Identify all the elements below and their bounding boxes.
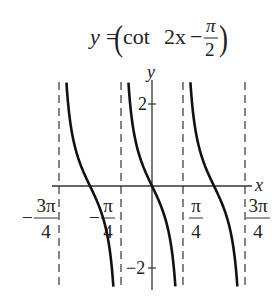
x-tick-label-num: π [103, 195, 113, 216]
title-arg: 2x [164, 24, 186, 49]
x-tick-label-sign: − [89, 207, 100, 228]
title-function: cot [123, 24, 150, 49]
y-tick-label: −2 [126, 258, 145, 278]
x-tick-label-num: π [191, 195, 201, 216]
title-frac-den: 2 [205, 39, 215, 60]
cot-graph: y = cot ( 2x − π 2 ) x y 2−2 3π4−π4−π43π… [0, 0, 272, 298]
x-axis-label: x [254, 175, 263, 195]
curve-branch [190, 82, 237, 286]
x-tick-label-den: 4 [191, 221, 201, 242]
chart-title: y = cot ( 2x − π 2 ) [88, 15, 228, 60]
curve-branch [66, 83, 113, 287]
title-right-paren: ) [219, 18, 228, 58]
title-frac-num: π [206, 15, 216, 36]
x-tick-label-den: 4 [253, 221, 263, 242]
title-minus: − [190, 24, 202, 49]
y-axis-label: y [145, 62, 155, 82]
x-tick-label-den: 4 [41, 221, 51, 242]
title-left-paren: ( [114, 18, 123, 58]
y-tick-label: 2 [138, 94, 147, 114]
x-tick-label-sign: − [22, 207, 33, 228]
x-tick-label-num: 3π [36, 195, 56, 216]
x-tick-label-num: 3π [248, 195, 268, 216]
title-lhs: y [88, 24, 100, 49]
